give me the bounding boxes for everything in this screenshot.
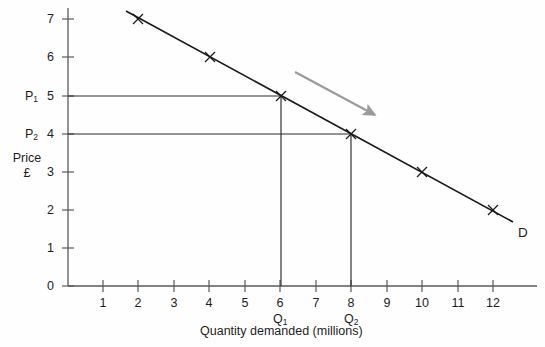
axes-group: [68, 8, 537, 286]
quantity-guide-lines: [281, 96, 351, 286]
y-tick-label-0: 0: [38, 280, 54, 293]
marker-point-10-3: [417, 167, 427, 177]
x-tick-label-8: 8: [341, 297, 361, 310]
demand-curve-series: [126, 11, 513, 222]
chart-canvas: [0, 0, 545, 347]
x-tick-label-1: 1: [93, 297, 113, 310]
movement-arrow: [295, 72, 375, 115]
x-tick-label-7: 7: [306, 297, 326, 310]
x-tick-label-12: 12: [483, 297, 503, 310]
y-tick-label-6: 6: [38, 51, 54, 64]
price-label-p1-sub: 1: [33, 94, 38, 104]
x-tick-label-4: 4: [199, 297, 219, 310]
price-label-p2: P2: [25, 128, 38, 141]
x-tick-label-5: 5: [235, 297, 255, 310]
x-tick-label-6: 6: [270, 297, 290, 310]
y-tick-label-1: 1: [38, 242, 54, 255]
demand-curve-label: D: [518, 226, 528, 240]
x-tick-label-11: 11: [448, 297, 468, 310]
demand-curve-chart: 7 6 5 4 3 2 1 0 1 2 3 4 5 6 7 8 9 10 11 …: [0, 0, 545, 347]
y-tick-label-7: 7: [38, 13, 54, 26]
y-tick-label-2: 2: [38, 204, 54, 217]
x-tick-label-9: 9: [377, 297, 397, 310]
x-tick-label-3: 3: [164, 297, 184, 310]
x-axis-title: Quantity demanded (millions): [200, 325, 363, 338]
price-label-p2-sub: 2: [33, 132, 38, 142]
y-axis-title-line2: £: [2, 167, 52, 180]
y-axis-title-line1: Price: [2, 152, 52, 165]
y-tick-label-4: 4: [38, 128, 54, 141]
price-guide-lines: [68, 96, 352, 134]
x-tick-label-2: 2: [128, 297, 148, 310]
demand-curve-line: [126, 11, 513, 222]
y-tick-label-5: 5: [38, 90, 54, 103]
x-tick-label-10: 10: [412, 297, 432, 310]
price-label-p1: P1: [25, 90, 38, 103]
marker-point-4-6: [205, 52, 215, 62]
